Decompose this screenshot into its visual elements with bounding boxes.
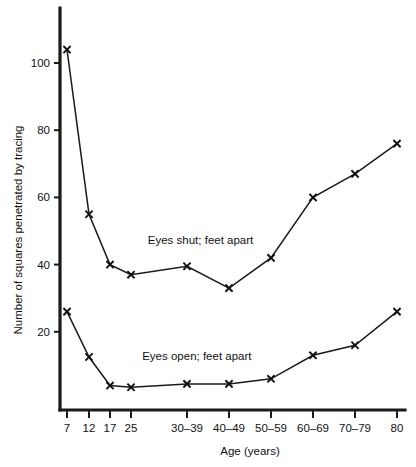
data-point-marker: [106, 261, 113, 268]
chart-figure: 20406080100712172530–3940–4950–5960–6970…: [0, 0, 416, 467]
data-point-marker: [393, 140, 400, 147]
line-chart-svg: 20406080100712172530–3940–4950–5960–6970…: [0, 0, 416, 467]
y-axis-title: Number of squares penetrated by tracing: [12, 125, 24, 334]
data-point-marker: [85, 353, 92, 360]
data-point-marker: [267, 254, 274, 261]
x-tick-label: 25: [125, 422, 138, 434]
x-tick-label: 30–39: [171, 422, 203, 434]
x-tick-label: 17: [104, 422, 117, 434]
y-tick-label: 100: [31, 57, 50, 69]
x-tick-label: 40–49: [213, 422, 245, 434]
x-tick-label: 12: [83, 422, 96, 434]
y-tick-label: 60: [37, 191, 50, 203]
x-axis-title: Age (years): [220, 445, 280, 457]
series-annotation-1: Eyes shut; feet apart: [148, 234, 254, 246]
y-tick-label: 80: [37, 124, 50, 136]
chart-series-layer: [63, 46, 400, 391]
x-tick-label: 60–69: [297, 422, 329, 434]
y-tick-label: 40: [37, 259, 50, 271]
data-point-marker: [351, 170, 358, 177]
x-tick-label: 7: [64, 422, 70, 434]
data-point-marker: [225, 285, 232, 292]
series-line-1: [67, 50, 397, 289]
data-point-marker: [393, 308, 400, 315]
chart-axes: 20406080100712172530–3940–4950–5960–6970…: [31, 8, 405, 434]
x-tick-label: 50–59: [255, 422, 287, 434]
series-annotation-2: Eyes open; feet apart: [142, 350, 252, 362]
data-point-marker: [63, 308, 70, 315]
data-point-marker: [309, 194, 316, 201]
x-tick-label: 80: [391, 422, 404, 434]
chart-labels-layer: Age (years)Number of squares penetrated …: [12, 125, 280, 457]
x-tick-label: 70–79: [339, 422, 371, 434]
y-tick-label: 20: [37, 326, 50, 338]
